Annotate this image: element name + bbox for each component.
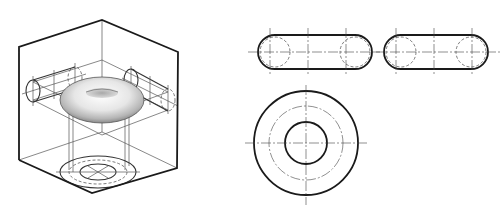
side-view — [374, 28, 500, 76]
orthographic-views — [0, 0, 502, 224]
front-view — [248, 28, 380, 76]
top-view — [245, 85, 368, 205]
drawing-canvas — [0, 0, 502, 224]
